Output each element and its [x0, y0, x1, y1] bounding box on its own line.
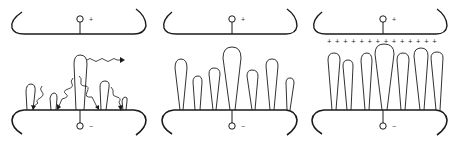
streamers: [26, 55, 127, 110]
cathode-sign: −: [241, 123, 245, 130]
anode-electrode: [164, 9, 297, 34]
anode-electrode: [314, 9, 447, 34]
cathode-sign: −: [89, 123, 93, 130]
cathode-electrode: [312, 110, 447, 135]
panel-1-drawing: + −: [0, 0, 152, 154]
cathode-sign: −: [392, 123, 396, 130]
anode-electrode: [12, 9, 146, 34]
positive-space-charge: + + + + + + + + + + + + + +: [327, 38, 437, 46]
panel-2-drawing: + −: [150, 0, 302, 154]
wavy-arrows: [31, 57, 125, 111]
cathode-electrode: [162, 110, 297, 135]
anode-sign: +: [89, 16, 93, 23]
cathode-electrode: [12, 110, 146, 135]
panel-2: + −: [150, 0, 302, 154]
arrow-head-icon: [120, 57, 125, 63]
panel-3: + + + + + + + + + + + + + + + −: [300, 0, 452, 154]
streamers: [328, 44, 443, 110]
discharge-diagram-figure: + −: [0, 0, 455, 154]
panel-1: + −: [0, 0, 152, 154]
anode-sign: +: [392, 16, 396, 23]
panel-3-drawing: + + + + + + + + + + + + + + + −: [300, 0, 455, 154]
anode-sign: +: [241, 16, 245, 23]
streamers: [175, 47, 294, 110]
